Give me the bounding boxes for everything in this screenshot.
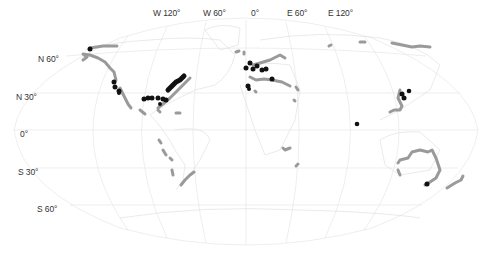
longitude-label-w60: W 60° bbox=[203, 8, 226, 18]
latitude-label-n30: N 30° bbox=[16, 92, 37, 102]
black-points bbox=[88, 47, 430, 187]
longitude-label-e60: E 60° bbox=[287, 8, 307, 18]
longitude-label-e120: E 120° bbox=[328, 8, 353, 18]
gray-segments bbox=[83, 42, 463, 188]
latitude-label-s60: S 60° bbox=[37, 204, 57, 214]
latitude-label-s30: S 30° bbox=[18, 167, 38, 177]
latitude-label-equator: 0° bbox=[20, 129, 28, 139]
latitude-label-n60: N 60° bbox=[38, 54, 59, 64]
world-map bbox=[0, 0, 492, 262]
longitude-label-w120: W 120° bbox=[153, 8, 180, 18]
longitude-label-0: 0° bbox=[251, 8, 259, 18]
